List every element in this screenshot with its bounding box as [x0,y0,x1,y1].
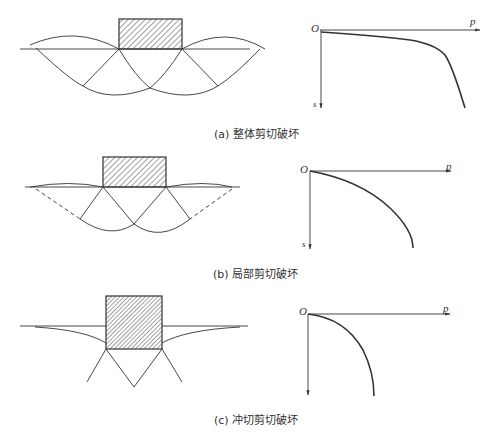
left-settlement-curve [35,327,106,343]
origin-label-c: O [299,305,307,317]
p-axis-label-b: p [446,160,452,172]
ps-curve-a [321,32,465,108]
panel-b-ps-curve [310,171,451,249]
left-heave [30,184,103,188]
failure-modes-figure [0,0,491,433]
right-failure-surface [119,49,260,95]
panel-c-soil-diagram [20,296,248,387]
ps-curve-c [308,314,374,396]
right-heave [166,184,232,188]
caption-a: (a) 整体剪切破坏 [214,125,299,141]
right-heave [182,37,265,49]
origin-label-b: O [300,163,308,175]
left-dashed-extension [36,189,80,219]
right-settlement-curve [162,327,240,343]
left-failure-surface [36,48,182,95]
caption-c: (c) 冲切剪切破坏 [214,411,298,427]
left-heave [30,36,119,49]
origin-label-a: O [311,22,319,34]
panel-c-ps-curve [308,314,450,396]
right-dashed-extension [190,189,232,219]
footing [119,19,182,49]
p-axis-label-c: p [443,302,449,314]
ps-curve-b [310,171,413,248]
s-axis-label-a: s [313,99,317,109]
panel-b-soil-diagram [25,157,240,232]
s-axis-label-b: s [302,239,306,249]
footing [106,296,162,349]
p-axis-label-a: p [470,15,476,27]
footing [103,157,166,187]
panel-a-soil-diagram [20,19,265,95]
caption-b: (b) 局部剪切破坏 [213,265,298,281]
panel-a-ps-curve [320,30,480,108]
left-failure-surface [80,187,166,231]
